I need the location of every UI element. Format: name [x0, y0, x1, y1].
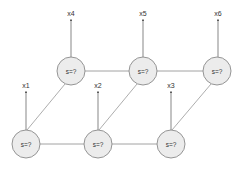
edge-diag-3	[172, 84, 211, 130]
node-label-bot-3: s=?	[166, 141, 177, 148]
node-label-top-2: s=?	[138, 68, 149, 75]
edge-diag-1	[27, 84, 65, 130]
node-label-top-3: s=?	[212, 68, 223, 75]
diagonal-edges	[27, 84, 211, 130]
edge-diag-2	[99, 84, 137, 130]
node-label-bot-1: s=?	[21, 141, 32, 148]
label-x3: x3	[167, 82, 175, 89]
label-x4: x4	[67, 10, 75, 17]
state-nodes	[12, 57, 231, 158]
label-x2: x2	[94, 82, 102, 89]
diagram-canvas: x4 x5 x6 x1 x2 x3 s=? s=? s=? s=? s=? s=…	[0, 0, 244, 169]
node-label-bot-2: s=?	[93, 141, 104, 148]
label-x5: x5	[139, 10, 147, 17]
label-x6: x6	[214, 10, 222, 17]
observation-arrows	[26, 20, 218, 130]
label-x1: x1	[22, 82, 30, 89]
node-label-top-1: s=?	[66, 68, 77, 75]
